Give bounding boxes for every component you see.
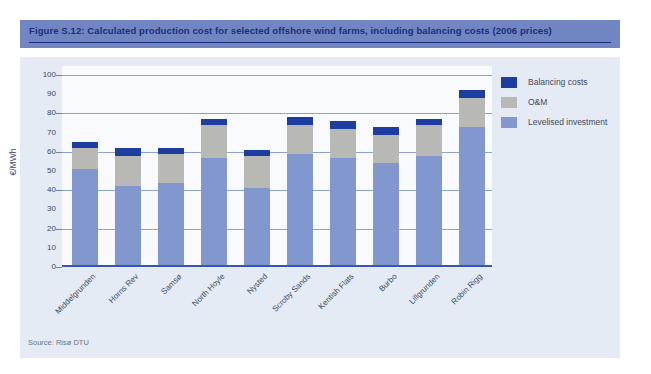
plot-area (62, 66, 492, 267)
y-tick-mark (56, 113, 62, 114)
y-tick-label: 20 (26, 224, 56, 233)
bar-segment-o-m (244, 156, 270, 189)
bar-segment-o-m (115, 156, 141, 187)
legend-swatch-levelised-investment (501, 117, 517, 128)
bar-segment-balancing-costs (244, 150, 270, 156)
bar-horns-rev (115, 66, 141, 267)
bar-segment-o-m (330, 129, 356, 158)
bar-kentish-flats (330, 66, 356, 267)
figure-title-bar: Figure S.12: Calculated production cost … (20, 20, 620, 48)
bar-segment-levelised-investment (158, 183, 184, 267)
y-tick-mark (56, 152, 62, 153)
bar-segment-o-m (158, 154, 184, 183)
legend-swatch-balancing-costs (501, 77, 517, 88)
bar-segment-balancing-costs (416, 119, 442, 125)
bar-segment-balancing-costs (287, 117, 313, 125)
bar-segment-levelised-investment (115, 186, 141, 267)
bar-sams- (158, 66, 184, 267)
bar-north-hoyle (201, 66, 227, 267)
bar-segment-levelised-investment (244, 188, 270, 267)
bar-segment-levelised-investment (287, 154, 313, 267)
bar-nysted (244, 66, 270, 267)
bar-middelgrunden (72, 66, 98, 267)
bar-segment-o-m (287, 125, 313, 154)
bar-segment-levelised-investment (416, 156, 442, 267)
y-tick-mark (56, 267, 62, 268)
y-tick-label: 100 (26, 70, 56, 79)
legend-row: O&M (501, 92, 607, 112)
legend-row: Balancing costs (501, 72, 607, 92)
bar-segment-balancing-costs (72, 142, 98, 148)
y-tick-label: 90 (26, 89, 56, 98)
figure-title: Figure S.12: Calculated production cost … (29, 25, 611, 36)
report-figure-page: Figure S.12: Calculated production cost … (0, 0, 651, 374)
legend-row: Levelised investment (501, 112, 607, 132)
y-tick-label: 40 (26, 185, 56, 194)
bar-segment-levelised-investment (330, 158, 356, 267)
bar-robin-rigg (459, 66, 485, 267)
y-tick-label: 0 (26, 262, 56, 271)
bar-segment-o-m (459, 98, 485, 127)
bar-segment-o-m (373, 135, 399, 164)
y-tick-label: 10 (26, 243, 56, 252)
bar-segment-levelised-investment (373, 163, 399, 267)
bar-scroby-sands (287, 66, 313, 267)
bar-segment-balancing-costs (158, 148, 184, 154)
bar-segment-balancing-costs (373, 127, 399, 135)
bar-segment-o-m (201, 125, 227, 158)
legend-swatch-o-m (501, 97, 517, 108)
bar-lillgrunden (416, 66, 442, 267)
bar-segment-levelised-investment (72, 169, 98, 267)
source-note: Source: Risø DTU (28, 338, 89, 347)
y-tick-mark (56, 229, 62, 230)
bar-segment-o-m (416, 125, 442, 156)
legend: Balancing costsO&MLevelised investment (501, 72, 607, 132)
bar-segment-levelised-investment (201, 158, 227, 267)
legend-label: O&M (528, 97, 547, 107)
legend-label: Levelised investment (528, 117, 607, 127)
y-tick-label: 80 (26, 108, 56, 117)
title-underline (29, 42, 611, 43)
bar-segment-levelised-investment (459, 127, 485, 267)
y-tick-label: 60 (26, 147, 56, 156)
bar-burbo (373, 66, 399, 267)
x-axis-baseline (62, 265, 492, 267)
y-axis-title: €/MWh (8, 132, 20, 192)
bar-segment-balancing-costs (330, 121, 356, 129)
y-tick-label: 50 (26, 166, 56, 175)
legend-label: Balancing costs (528, 77, 588, 87)
y-tick-mark (56, 75, 62, 76)
bar-segment-balancing-costs (459, 90, 485, 98)
bar-segment-balancing-costs (115, 148, 141, 156)
y-tick-label: 70 (26, 128, 56, 137)
bar-segment-balancing-costs (201, 119, 227, 125)
y-tick-mark (56, 190, 62, 191)
bar-segment-o-m (72, 148, 98, 169)
y-tick-label: 30 (26, 204, 56, 213)
